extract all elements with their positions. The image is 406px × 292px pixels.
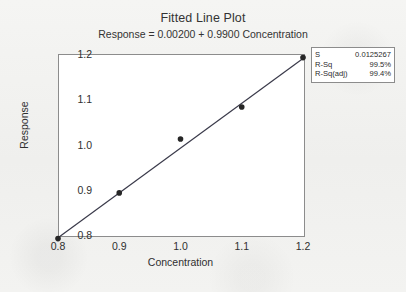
x-axis-tick-label: 1.2: [283, 240, 323, 252]
statistics-row-label: S: [315, 50, 324, 60]
x-axis-tick-label: 1.0: [161, 240, 201, 252]
data-point-marker: [178, 136, 184, 142]
statistics-row: S0.0125267: [315, 50, 391, 60]
statistics-row: R-Sq99.5%: [315, 60, 391, 70]
y-axis-tick-label: 1.2: [58, 48, 92, 60]
statistics-row-value: 99.5%: [369, 60, 391, 70]
statistics-row: R-Sq(adj)99.4%: [315, 69, 391, 79]
x-axis-tick-label: 0.9: [99, 240, 139, 252]
fitted-line-plot-page: Fitted Line Plot Response = 0.00200 + 0.…: [0, 0, 406, 292]
y-axis-tick-label: 1.1: [58, 93, 92, 105]
statistics-row-label: R-Sq: [315, 60, 336, 70]
statistics-row-value: 0.0125267: [355, 50, 391, 60]
y-axis-tick-label: 1.0: [58, 139, 92, 151]
x-axis-title: Concentration: [58, 256, 303, 268]
statistics-row-label: R-Sq(adj): [315, 69, 352, 79]
y-axis-title: Response: [18, 70, 30, 180]
data-point-marker: [239, 104, 245, 110]
chart-subtitle-equation: Response = 0.00200 + 0.9900 Concentratio…: [0, 28, 406, 40]
x-axis-tick-label: 1.1: [222, 240, 262, 252]
data-point-marker: [116, 190, 122, 196]
statistics-row-value: 99.4%: [369, 69, 391, 79]
data-point-marker: [300, 55, 306, 61]
y-axis-tick-label: 0.9: [58, 184, 92, 196]
regression-fit-line: [58, 59, 303, 238]
statistics-box: S0.0125267R-Sq99.5%R-Sq(adj)99.4%: [311, 47, 395, 83]
chart-title: Fitted Line Plot: [0, 11, 406, 25]
fit-line-segment: [58, 59, 303, 238]
x-axis-tick-label: 0.8: [38, 240, 78, 252]
plot-canvas: [58, 54, 303, 235]
